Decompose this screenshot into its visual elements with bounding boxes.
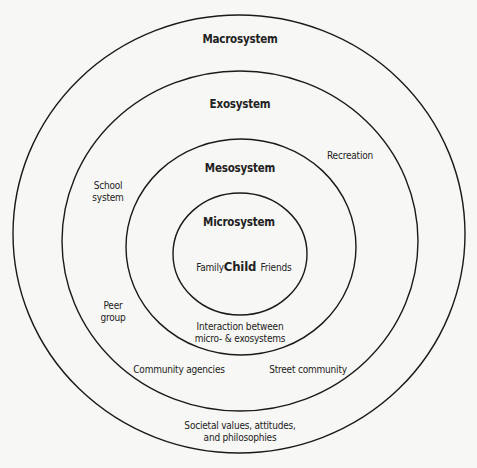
child-label: Child (224, 259, 256, 275)
microsystem-title: Microsystem (203, 216, 275, 230)
school-system-line2: system (92, 192, 123, 204)
ecological-systems-rings (0, 0, 477, 468)
exosystem-ring (62, 71, 418, 411)
interaction-line2: micro- & exosystems (195, 333, 286, 345)
exosystem-title: Exosystem (210, 98, 271, 112)
societal-line2: and philosophies (184, 432, 295, 444)
microsystem-ring (173, 193, 307, 315)
peer-group-line1: Peer (100, 300, 125, 312)
interaction-line1: Interaction between (195, 321, 286, 333)
societal-line1: Societal values, attitudes, (184, 420, 295, 432)
peer-group-label: Peer group (100, 300, 125, 324)
peer-group-line2: group (100, 312, 125, 324)
interaction-label: Interaction between micro- & exosystems (195, 321, 286, 345)
societal-values-label: Societal values, attitudes, and philosop… (184, 420, 295, 444)
friends-label: Friends (261, 262, 292, 274)
community-agencies-label: Community agencies (133, 364, 224, 376)
school-system-line1: School (92, 180, 123, 192)
street-community-label: Street community (269, 364, 347, 376)
recreation-label: Recreation (327, 150, 373, 162)
macrosystem-title: Macrosystem (202, 33, 277, 47)
macrosystem-ring (13, 15, 465, 453)
mesosystem-title: Mesosystem (205, 162, 275, 176)
school-system-label: School system (92, 180, 123, 204)
family-label: Family (196, 262, 224, 274)
